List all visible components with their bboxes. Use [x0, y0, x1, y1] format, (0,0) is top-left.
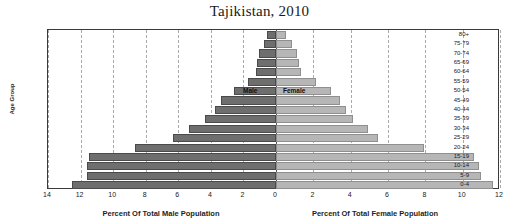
gridline-female-12	[500, 30, 501, 188]
age-group-label-40-44: 40-44	[439, 106, 469, 112]
bar-male-70-74	[259, 49, 276, 57]
age-group-label-55-59: 55-59	[439, 78, 469, 84]
pyramid-row	[48, 143, 498, 152]
bar-female-45-49	[276, 96, 340, 104]
x-axis-title-male: Percent Of Total Male Population	[47, 209, 275, 218]
age-group-label-20-24: 20-24	[439, 144, 469, 150]
y-axis-title: Age Group	[9, 69, 15, 129]
age-group-label-10-14: 10-14	[439, 162, 469, 168]
x-tick-male-4: 4	[199, 191, 221, 198]
bar-female-70-74	[276, 49, 297, 57]
plot-area	[47, 29, 499, 189]
legend-label-male: Male	[243, 87, 257, 94]
age-group-label-80+: 80+	[439, 31, 469, 37]
x-tick-male-14: 14	[36, 191, 58, 198]
pyramid-row	[48, 115, 498, 124]
x-tick-female-6: 6	[376, 191, 398, 198]
bar-male-5-9	[87, 172, 276, 180]
age-group-label-5-9: 5-9	[439, 172, 469, 178]
bar-female-40-44	[276, 106, 346, 114]
pyramid-row	[48, 30, 498, 39]
pyramid-row	[48, 134, 498, 143]
pyramid-row	[48, 49, 498, 58]
age-group-label-50-54: 50-54	[439, 87, 469, 93]
x-axis-title-female: Percent Of Total Female Population	[275, 209, 475, 218]
bar-male-40-44	[215, 106, 276, 114]
bar-male-35-39	[205, 115, 276, 123]
age-group-label-60-64: 60-64	[439, 68, 469, 74]
pyramid-row	[48, 96, 498, 105]
x-tick-male-8: 8	[134, 191, 156, 198]
pyramid-row	[48, 152, 498, 161]
x-tick-male-12: 12	[69, 191, 91, 198]
bar-female-25-29	[276, 134, 378, 142]
x-tick-female-0: 0	[264, 191, 286, 198]
legend-label-female: Female	[283, 87, 305, 94]
bar-male-45-49	[221, 96, 276, 104]
pyramid-row	[48, 68, 498, 77]
bar-male-20-24	[135, 144, 276, 152]
population-pyramid-chart: Tajikistan, 2010 Age Group 80+75-7970-74…	[0, 0, 519, 224]
bar-female-55-59	[276, 78, 316, 86]
x-tick-female-10: 10	[451, 191, 473, 198]
bar-male-30-34	[189, 125, 276, 133]
age-group-label-45-49: 45-49	[439, 97, 469, 103]
bar-female-75-79	[276, 40, 292, 48]
x-tick-female-4: 4	[339, 191, 361, 198]
bar-female-35-39	[276, 115, 353, 123]
bar-male-65-69	[257, 59, 276, 67]
x-tick-male-2: 2	[231, 191, 253, 198]
pyramid-row	[48, 39, 498, 48]
pyramid-row	[48, 77, 498, 86]
bar-female-30-34	[276, 125, 368, 133]
page-title: Tajikistan, 2010	[0, 3, 519, 20]
bar-female-20-24	[276, 144, 424, 152]
bar-male-0-4	[72, 181, 276, 189]
pyramid-row	[48, 58, 498, 67]
x-tick-female-12: 12	[488, 191, 510, 198]
pyramid-row	[48, 124, 498, 133]
age-group-label-75-79: 75-79	[439, 40, 469, 46]
x-tick-male-6: 6	[166, 191, 188, 198]
x-tick-male-10: 10	[101, 191, 123, 198]
bar-male-15-19	[89, 153, 276, 161]
bar-male-60-64	[256, 68, 276, 76]
age-group-label-30-34: 30-34	[439, 125, 469, 131]
age-group-label-0-4: 0-4	[439, 181, 469, 187]
x-tick-female-8: 8	[413, 191, 435, 198]
bar-male-80+	[267, 31, 276, 39]
age-group-label-15-19: 15-19	[439, 153, 469, 159]
bar-female-65-69	[276, 59, 299, 67]
x-tick-female-2: 2	[301, 191, 323, 198]
pyramid-row	[48, 162, 498, 171]
bar-male-75-79	[264, 40, 276, 48]
pyramid-row	[48, 181, 498, 190]
age-group-label-25-29: 25-29	[439, 134, 469, 140]
bar-male-25-29	[173, 134, 276, 142]
age-group-label-35-39: 35-39	[439, 115, 469, 121]
age-group-label-70-74: 70-74	[439, 50, 469, 56]
pyramid-row	[48, 105, 498, 114]
pyramid-row	[48, 171, 498, 180]
bar-male-55-59	[248, 78, 277, 86]
bar-female-80+	[276, 31, 286, 39]
bar-female-60-64	[276, 68, 301, 76]
pyramid-row	[48, 86, 498, 95]
age-group-label-65-69: 65-69	[439, 59, 469, 65]
bar-male-10-14	[87, 162, 276, 170]
